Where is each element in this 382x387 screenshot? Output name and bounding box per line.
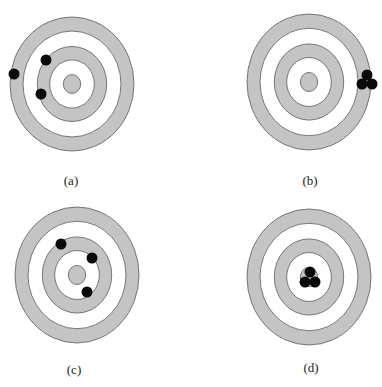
target-diagram [0,0,382,387]
shot-mark [87,253,98,264]
target-d [247,209,371,345]
target-b [247,14,378,150]
shot-mark [310,277,321,288]
shot-mark [41,55,52,66]
shot-mark [9,69,20,80]
shot-mark [357,79,368,90]
panel-label-d: (d) [303,360,318,376]
panel-label-b: (b) [302,173,317,189]
shot-mark [56,239,67,250]
shot-mark [305,267,316,278]
shot-mark [367,79,378,90]
shot-mark [300,277,311,288]
bullseye [63,75,80,94]
shot-mark [82,287,93,298]
panel-label-a: (a) [64,173,78,189]
target-a [9,17,135,151]
bullseye [300,72,317,91]
panel-label-c: (c) [67,362,81,378]
bullseye [68,265,85,284]
shot-mark [36,89,47,100]
target-c [15,207,139,343]
